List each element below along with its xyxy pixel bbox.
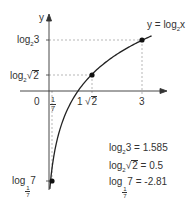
numerator: 1 <box>51 96 55 104</box>
annotation-log2-3: log23 = 1.585 <box>109 143 168 155</box>
radicand: 2 <box>91 96 98 107</box>
log-arg: 3 <box>34 34 40 45</box>
log-word: log <box>109 176 122 187</box>
denominator: 7 <box>51 105 55 113</box>
annotation-value: = 0.5 <box>141 160 164 171</box>
point-sqrt2-half <box>89 72 94 77</box>
point-3-log2-3 <box>139 37 144 42</box>
log-word: log <box>17 34 30 45</box>
radicand: 2 <box>131 160 138 171</box>
log-word: log <box>109 160 122 171</box>
annotation-log-one-seventh-7: log177 = -2.81 <box>109 177 167 199</box>
log-word: log <box>10 70 23 81</box>
denominator: 7 <box>123 193 126 199</box>
y-tick-log-one-seventh-7: log177 <box>12 176 36 198</box>
x-tick-one-seventh: 17 <box>50 94 56 113</box>
log-arg: 3 <box>126 142 132 153</box>
origin-label: 0 <box>34 97 40 107</box>
y-tick-log2-sqrt2: log2√2 <box>10 70 39 83</box>
x-axis-arrow-icon <box>160 89 167 94</box>
x-tick-sqrt2: √2 <box>85 96 97 107</box>
radicand: 2 <box>32 70 39 81</box>
y-tick-log2-3: log23 <box>17 35 39 47</box>
x-tick-one: 1 <box>77 97 83 107</box>
x-tick-three: 3 <box>139 97 145 107</box>
function-label-var: x <box>180 19 185 30</box>
function-label-prefix: y = log <box>147 19 177 30</box>
annotation-value: = -2.81 <box>136 176 167 187</box>
log-base-fraction: 17 <box>122 186 127 199</box>
y-axis-arrow-icon <box>47 14 52 21</box>
annotation-log2-sqrt2: log2√2 = 0.5 <box>109 160 163 173</box>
log-word: log <box>109 142 122 153</box>
log-base-fraction: 17 <box>25 185 30 198</box>
fraction: 17 <box>50 96 56 113</box>
log-word: log <box>12 175 25 186</box>
denominator: 7 <box>26 192 29 198</box>
y-axis-label: y <box>39 13 44 23</box>
function-label: y = log2x <box>147 20 185 32</box>
log-arg: 7 <box>127 176 133 187</box>
log-arg: 7 <box>30 175 36 186</box>
point-one-seventh <box>49 178 54 183</box>
annotation-value: = 1.585 <box>134 142 168 153</box>
